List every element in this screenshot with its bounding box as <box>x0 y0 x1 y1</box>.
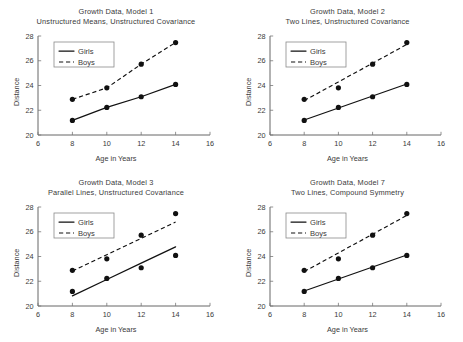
legend-label-girls: Girls <box>78 47 94 56</box>
panel-title-block: Growth Data, Model 2 Two Lines, Unstruct… <box>232 7 463 26</box>
y-tick-label: 28 <box>257 203 265 212</box>
y-tick-label: 28 <box>25 203 33 212</box>
data-point-girls <box>336 276 341 281</box>
data-point-girls <box>104 276 109 281</box>
chart-panel-model-3: 68101214162022242628GirlsBoys Growth Dat… <box>0 171 232 342</box>
legend-label-girls: Girls <box>310 218 326 227</box>
y-tick-label: 28 <box>25 32 33 41</box>
data-point-girls <box>70 289 75 294</box>
legend-label-boys: Boys <box>78 229 95 238</box>
data-point-boys <box>336 85 341 90</box>
data-point-girls <box>139 265 144 270</box>
y-axis-label: Distance <box>244 248 253 276</box>
panel-title: Growth Data, Model 1 <box>0 7 232 17</box>
chart-panel-model-2: 68101214162022242628GirlsBoys Growth Dat… <box>232 0 463 171</box>
panel-title: Growth Data, Model 7 <box>232 178 463 188</box>
data-point-boys <box>139 62 144 67</box>
y-tick-label: 22 <box>257 277 265 286</box>
y-axis-label: Distance <box>12 248 21 276</box>
series-line-girls <box>72 84 175 120</box>
data-point-boys <box>104 85 109 90</box>
data-point-girls <box>404 253 409 258</box>
x-tick-label: 10 <box>103 310 111 319</box>
x-tick-label: 12 <box>137 139 145 148</box>
x-axis-label: Age in Years <box>0 154 232 163</box>
series-line-girls <box>72 247 175 296</box>
x-tick-label: 6 <box>268 139 272 148</box>
data-point-girls <box>370 265 375 270</box>
y-tick-label: 28 <box>257 32 265 41</box>
panel-title-block: Growth Data, Model 1 Unstructured Means,… <box>0 7 232 26</box>
panel-subtitle: Unstructured Means, Unstructured Covaria… <box>0 17 232 27</box>
x-tick-label: 8 <box>70 310 74 319</box>
data-point-girls <box>139 94 144 99</box>
data-point-girls <box>104 105 109 110</box>
series-line-girls <box>304 255 407 291</box>
panel-title-block: Growth Data, Model 3 Parallel Lines, Uns… <box>0 178 232 197</box>
y-tick-label: 22 <box>25 106 33 115</box>
x-tick-label: 14 <box>403 310 411 319</box>
x-tick-label: 8 <box>302 139 306 148</box>
data-point-boys <box>302 97 307 102</box>
x-tick-label: 14 <box>403 139 411 148</box>
data-point-girls <box>70 118 75 123</box>
x-tick-label: 10 <box>334 310 342 319</box>
y-tick-label: 22 <box>25 277 33 286</box>
data-point-girls <box>173 253 178 258</box>
legend-label-girls: Girls <box>78 218 94 227</box>
data-point-boys <box>104 256 109 261</box>
data-point-girls <box>370 94 375 99</box>
chart-panel-model-7: 68101214162022242628GirlsBoys Growth Dat… <box>232 171 463 342</box>
data-point-girls <box>173 82 178 87</box>
data-point-boys <box>370 62 375 67</box>
panel-subtitle: Parallel Lines, Unstructured Covariance <box>0 188 232 198</box>
x-tick-label: 14 <box>172 310 180 319</box>
y-tick-label: 20 <box>25 131 33 140</box>
panel-subtitle: Two Lines, Unstructured Covariance <box>232 17 463 27</box>
data-point-boys <box>70 268 75 273</box>
legend-label-boys: Boys <box>78 58 95 67</box>
y-tick-label: 26 <box>257 56 265 65</box>
data-point-boys <box>302 268 307 273</box>
x-tick-label: 16 <box>206 139 214 148</box>
y-axis-label: Distance <box>244 77 253 105</box>
x-tick-label: 12 <box>137 310 145 319</box>
data-point-girls <box>302 118 307 123</box>
data-point-boys <box>370 233 375 238</box>
x-axis-label: Age in Years <box>232 325 463 334</box>
x-tick-label: 6 <box>36 139 40 148</box>
x-tick-label: 12 <box>369 310 377 319</box>
data-point-girls <box>404 82 409 87</box>
legend-label-boys: Boys <box>310 58 327 67</box>
legend-label-boys: Boys <box>310 229 327 238</box>
y-tick-label: 20 <box>257 131 265 140</box>
data-point-boys <box>404 211 409 216</box>
data-point-boys <box>173 211 178 216</box>
x-tick-label: 10 <box>103 139 111 148</box>
y-tick-label: 20 <box>25 302 33 311</box>
data-point-boys <box>70 97 75 102</box>
y-tick-label: 26 <box>25 227 33 236</box>
y-tick-label: 22 <box>257 106 265 115</box>
x-tick-label: 6 <box>36 310 40 319</box>
panel-subtitle: Two Lines, Compound Symmetry <box>232 188 463 198</box>
x-axis-label: Age in Years <box>0 325 232 334</box>
data-point-boys <box>336 256 341 261</box>
y-axis-label: Distance <box>12 77 21 105</box>
x-tick-label: 12 <box>369 139 377 148</box>
panel-title: Growth Data, Model 2 <box>232 7 463 17</box>
y-tick-label: 26 <box>25 56 33 65</box>
data-point-boys <box>173 40 178 45</box>
y-tick-label: 24 <box>257 81 265 90</box>
series-line-girls <box>304 84 407 120</box>
x-tick-label: 10 <box>334 139 342 148</box>
x-tick-label: 16 <box>437 310 445 319</box>
y-tick-label: 24 <box>25 81 33 90</box>
x-tick-label: 16 <box>206 310 214 319</box>
data-point-boys <box>404 40 409 45</box>
y-tick-label: 24 <box>25 252 33 261</box>
x-tick-label: 6 <box>268 310 272 319</box>
chart-panel-model-1: 68101214162022242628GirlsBoys Growth Dat… <box>0 0 232 171</box>
y-tick-label: 26 <box>257 227 265 236</box>
x-tick-label: 16 <box>437 139 445 148</box>
